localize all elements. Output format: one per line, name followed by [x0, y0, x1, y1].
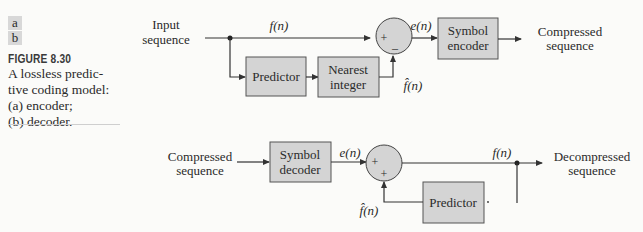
encoder-output-label-2: sequence — [546, 38, 594, 53]
fhat-to-summer-arrow — [379, 56, 393, 77]
decoder-input-label: Compressed — [168, 149, 233, 164]
decoder-label: decoder — [279, 162, 321, 177]
encoder-input-label: Input — [152, 17, 180, 32]
encoder-label: encoder — [447, 38, 489, 53]
encoder-output-label: Compressed — [538, 24, 603, 39]
decoder-signal-f-label: f(n) — [493, 145, 512, 160]
signal-fhat-label: f̂(n) — [404, 78, 423, 93]
decoder-signal-fhat-label: f̂(n) — [360, 203, 379, 218]
encoder-input-label-2: sequence — [142, 32, 190, 47]
decoder-symbol-label: Symbol — [280, 147, 321, 162]
decoder-summer-plus-2: + — [381, 167, 388, 181]
decoder-predictor-label: Predictor — [429, 195, 477, 210]
decoder-output-label: Decompressed — [554, 149, 631, 164]
decoder-signal-e-label: e(n) — [340, 145, 361, 160]
nearest-label: Nearest — [328, 62, 368, 77]
symbol-label: Symbol — [448, 23, 489, 38]
signal-f-label: f(n) — [270, 18, 289, 33]
predictor-label: Predictor — [252, 69, 300, 84]
decoder-fhat-arrow — [384, 182, 423, 202]
decoder-summer-plus-1: + — [372, 155, 379, 169]
integer-label: integer — [330, 77, 367, 92]
summer-minus: – — [391, 41, 399, 55]
signal-e-label: e(n) — [411, 18, 432, 33]
summer-plus: + — [381, 31, 388, 45]
coding-diagram: Input sequence f(n) Predictor Nearest in… — [0, 0, 643, 232]
decoder-diagram: Compressed sequence Symbol decoder e(n) … — [168, 142, 631, 223]
predictor-feed-arrow — [230, 38, 245, 77]
encoder-diagram: Input sequence f(n) Predictor Nearest in… — [142, 17, 602, 97]
decoder-output-label-2: sequence — [568, 163, 616, 178]
decoder-input-label-2: sequence — [176, 163, 224, 178]
stray-dot — [487, 201, 489, 203]
